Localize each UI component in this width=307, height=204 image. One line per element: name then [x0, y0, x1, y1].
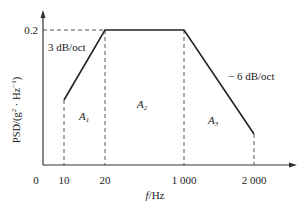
x-tick-origin: 0	[33, 174, 39, 186]
area-a1-label: A1	[78, 110, 89, 124]
area-a3-label: A3	[207, 114, 219, 128]
x-tick-2000: 2 000	[242, 174, 267, 186]
psd-chart: 0.2 0 10 20 1 000 2 000 f/Hz PSD/(g2 · H…	[0, 0, 307, 204]
x-tick-10: 10	[59, 174, 71, 186]
slope-up-annotation: 3 dB/oct	[48, 41, 86, 53]
y-axis-arrow-icon	[41, 10, 46, 18]
x-tick-1000: 1 000	[172, 174, 197, 186]
y-tick-0.2: 0.2	[24, 24, 38, 36]
x-tick-20: 20	[100, 174, 112, 186]
psd-curve	[64, 30, 254, 134]
y-axis-label: PSD/(g2 · Hz−1)	[10, 76, 23, 143]
slope-down-annotation: − 6 dB/oct	[228, 70, 275, 82]
area-a2-label: A2	[136, 98, 148, 112]
x-axis-arrow-icon	[289, 163, 297, 168]
x-axis-label: f/Hz	[146, 189, 165, 201]
